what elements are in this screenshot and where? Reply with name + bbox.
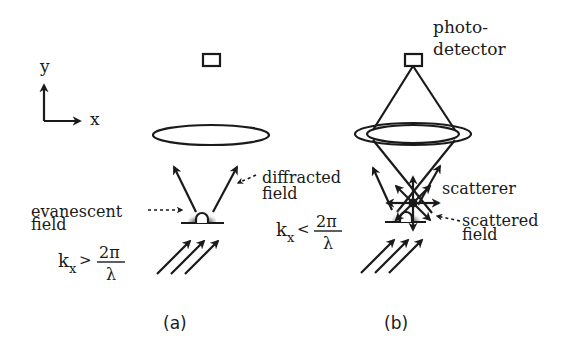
incident-arrow-3-icon — [389, 240, 422, 273]
condition-a: k x > 2π λ — [58, 243, 125, 284]
diffracted-arrow-left-icon — [174, 167, 196, 212]
sample-bump-icon — [196, 213, 208, 223]
lens-icon — [153, 125, 269, 145]
y-axis-label: y — [39, 56, 50, 76]
diffracted-arrow-right-icon — [213, 167, 237, 212]
caption-a: (a) — [163, 313, 187, 333]
detector-icon — [203, 54, 220, 66]
svg-text:<: < — [297, 220, 310, 238]
cone-left — [373, 66, 413, 130]
label-photo: photo- — [433, 17, 488, 37]
incident-arrow-1-icon — [157, 241, 190, 274]
label-detector: detector — [433, 39, 506, 59]
diffracted-pointer-icon — [238, 175, 256, 183]
collection-line-right — [397, 140, 455, 212]
svg-text:λ: λ — [106, 265, 116, 284]
coordinate-axes: y x — [39, 56, 100, 129]
label-scatterer: scatterer — [442, 179, 516, 198]
svg-text:2π: 2π — [99, 243, 120, 262]
incident-arrow-1-icon — [361, 240, 394, 273]
diagram-canvas: y x diffracted field evanescent field k … — [0, 0, 573, 361]
incident-arrow-3-icon — [185, 241, 218, 274]
photodetector-icon — [405, 54, 422, 66]
incident-arrow-2-icon — [375, 240, 408, 273]
svg-text:x: x — [287, 230, 295, 245]
svg-text:x: x — [69, 261, 77, 276]
lens-inner-icon — [367, 125, 459, 143]
incident-arrow-2-icon — [171, 241, 204, 274]
scattered-field-pointer-icon — [437, 216, 460, 221]
label-evanescent-field: field — [31, 215, 67, 234]
svg-text:2π: 2π — [316, 212, 337, 231]
svg-text:λ: λ — [323, 234, 333, 253]
caption-b: (b) — [384, 313, 408, 333]
cone-right — [413, 66, 455, 130]
label-scattered-field: field — [462, 225, 498, 244]
x-axis-label: x — [90, 109, 100, 129]
svg-text:>: > — [79, 251, 92, 269]
condition-b: k x < 2π λ — [276, 212, 342, 253]
label-diffracted-field: field — [262, 184, 298, 203]
panel-a: diffracted field evanescent field k x > … — [31, 54, 341, 333]
